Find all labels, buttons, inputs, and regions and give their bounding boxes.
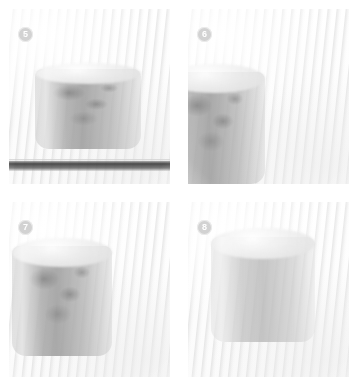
- panel-badge-7: 7: [18, 220, 33, 235]
- cylinder-highlight: [12, 246, 112, 356]
- panel-badge-6: 6: [197, 27, 212, 42]
- panel-5[interactable]: 5: [0, 0, 179, 193]
- panel-badge-5: 5: [18, 27, 33, 42]
- panel-6[interactable]: 6: [179, 0, 358, 193]
- figure-root: 5 6: [0, 0, 358, 386]
- specimen-cylinder: [35, 69, 141, 150]
- cylinder-highlight: [35, 69, 141, 150]
- stage-bar: [9, 161, 170, 171]
- panel-grid: 5 6: [0, 0, 358, 386]
- panel-8[interactable]: 8: [179, 193, 358, 386]
- cylinder-highlight: [211, 237, 316, 342]
- specimen-cylinder: [211, 237, 316, 342]
- specimen-cylinder: [188, 72, 265, 184]
- panel-7[interactable]: 7: [0, 193, 179, 386]
- panel-5-photo: [9, 9, 170, 184]
- panel-7-photo: [9, 202, 170, 377]
- panel-badge-8: 8: [197, 220, 212, 235]
- specimen-cylinder: [12, 246, 112, 356]
- panel-8-photo: [188, 202, 349, 377]
- panel-6-photo: [188, 9, 349, 184]
